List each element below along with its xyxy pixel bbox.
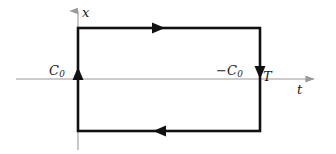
contour-arrow-top-right-icon [152, 23, 165, 34]
x-axis-label: x [82, 6, 89, 19]
contour-figure: x t C0 −C0 T [0, 0, 336, 154]
contour-label-c0: C0 [49, 64, 65, 79]
contour-label-minus-c0-base: −C [216, 63, 237, 78]
contour-label-c0-base: C [49, 63, 59, 78]
contour-arrow-left-up-icon [73, 67, 84, 80]
contour-label-minus-c0: −C0 [216, 64, 243, 79]
contour-label-minus-c0-subscript: 0 [237, 69, 243, 79]
contour-arrow-bottom-left-icon [153, 126, 166, 137]
contour-label-c0-subscript: 0 [59, 69, 65, 79]
t-axis-label: t [297, 83, 302, 96]
period-label-t: T [263, 70, 272, 83]
